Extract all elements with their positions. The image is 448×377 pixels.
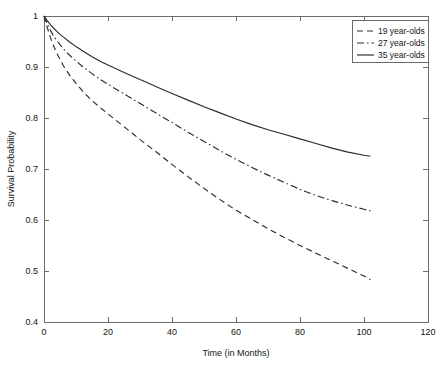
y-axis-title: Survival Probability [6,130,16,207]
curve-27-year-olds [44,16,370,211]
chart-canvas: 0204060801001200.40.50.60.70.80.91 19 ye… [0,0,448,377]
curve-35-year-olds [44,16,370,156]
y-tick-label: 0.5 [25,266,38,276]
x-tick-label: 120 [420,327,435,337]
survival-curves [44,16,370,280]
x-axis-title: Time (in Months) [202,348,269,358]
x-tick-label: 0 [41,327,46,337]
x-tick-label: 40 [167,327,177,337]
survival-curve-figure: 0204060801001200.40.50.60.70.80.91 19 ye… [0,0,448,377]
x-tick-label: 100 [356,327,371,337]
y-tick-label: 0.7 [25,164,38,174]
y-tick-label: 0.4 [25,317,38,327]
x-tick-label: 80 [295,327,305,337]
curve-19-year-olds [44,16,370,280]
y-tick-label: 1 [33,11,38,21]
legend-label: 19 year-olds [378,26,425,36]
legend: 19 year-olds27 year-olds35 year-olds [352,20,428,62]
x-tick-label: 60 [231,327,241,337]
y-tick-label: 0.8 [25,113,38,123]
x-tick-label: 20 [103,327,113,337]
y-tick-label: 0.9 [25,62,38,72]
y-tick-label: 0.6 [25,215,38,225]
legend-label: 35 year-olds [378,50,425,60]
legend-label: 27 year-olds [378,38,425,48]
